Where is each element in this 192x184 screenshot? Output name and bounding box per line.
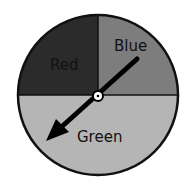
- spinner: Red Blue Green: [0, 0, 192, 184]
- label-blue: Blue: [114, 37, 147, 55]
- label-green: Green: [77, 128, 122, 146]
- label-red: Red: [50, 56, 79, 74]
